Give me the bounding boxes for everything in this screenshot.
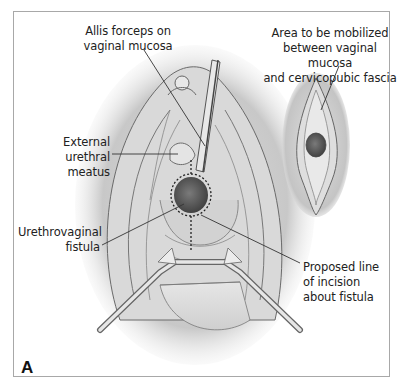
label-line: vaginal mucosa: [63, 39, 193, 54]
label-line: External urethral: [18, 135, 110, 165]
panel-letter: A: [21, 358, 33, 378]
label-incision: Proposed line of incision about fistula: [303, 260, 393, 305]
label-line: Proposed line: [303, 260, 393, 275]
label-line: and cervicopubic fascia: [260, 71, 400, 86]
main-illustration: [75, 45, 315, 365]
label-allis-forceps: Allis forceps on vaginal mucosa: [63, 24, 193, 54]
inset-illustration: [282, 73, 350, 217]
label-line: between vaginal mucosa: [260, 41, 400, 71]
label-fistula: Urethrovaginal fistula: [18, 225, 100, 255]
label-urethral-meatus: External urethral meatus: [18, 135, 110, 180]
label-line: Area to be mobilized: [260, 26, 400, 41]
label-line: meatus: [18, 165, 110, 180]
label-line: fistula: [18, 240, 100, 255]
label-line: about fistula: [303, 290, 393, 305]
label-line: of incision: [303, 275, 393, 290]
label-line: Urethrovaginal: [18, 225, 100, 240]
label-area-mobilized: Area to be mobilized between vaginal muc…: [260, 26, 400, 86]
label-line: Allis forceps on: [63, 24, 193, 39]
